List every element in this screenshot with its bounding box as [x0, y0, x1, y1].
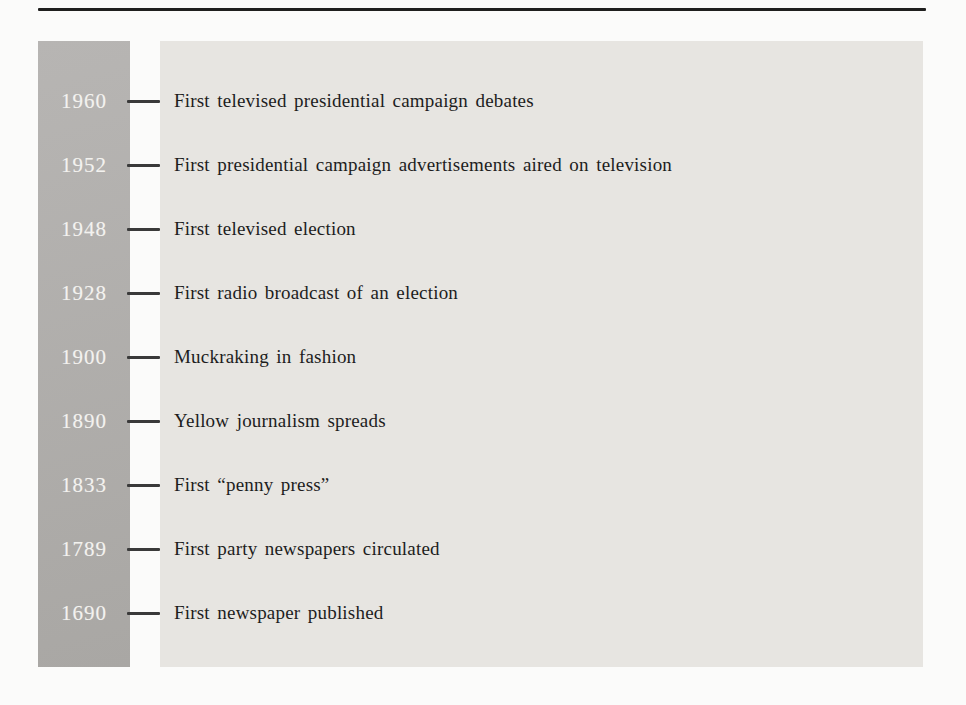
timeline-entry: 1833First “penny press” — [38, 453, 923, 517]
timeline-year: 1960 — [38, 89, 130, 114]
timeline-event-text: Muckraking in fashion — [174, 346, 356, 368]
timeline-entry: 1890Yellow journalism spreads — [38, 389, 923, 453]
timeline-year: 1952 — [38, 153, 130, 178]
timeline-year: 1900 — [38, 345, 130, 370]
tick-mark — [127, 484, 160, 487]
timeline-event-text: First televised presidential campaign de… — [174, 90, 534, 112]
timeline-entry: 1948First televised election — [38, 197, 923, 261]
media-timeline: 1960First televised presidential campaig… — [38, 41, 923, 667]
timeline-year: 1948 — [38, 217, 130, 242]
timeline-event-text: First “penny press” — [174, 474, 330, 496]
tick-mark — [127, 420, 160, 423]
timeline-entry: 1900Muckraking in fashion — [38, 325, 923, 389]
timeline-year: 1833 — [38, 473, 130, 498]
timeline-year: 1928 — [38, 281, 130, 306]
timeline-rows: 1960First televised presidential campaig… — [38, 41, 923, 667]
tick-mark — [127, 164, 160, 167]
timeline-year: 1690 — [38, 601, 130, 626]
timeline-year: 1890 — [38, 409, 130, 434]
timeline-entry: 1960First televised presidential campaig… — [38, 69, 923, 133]
timeline-event-text: First newspaper published — [174, 602, 383, 624]
tick-mark — [127, 292, 160, 295]
timeline-event-text: Yellow journalism spreads — [174, 410, 386, 432]
tick-mark — [127, 100, 160, 103]
top-rule — [38, 8, 926, 11]
timeline-event-text: First presidential campaign advertisemen… — [174, 154, 672, 176]
timeline-event-text: First party newspapers circulated — [174, 538, 440, 560]
timeline-entry: 1789First party newspapers circulated — [38, 517, 923, 581]
tick-mark — [127, 356, 160, 359]
timeline-entry: 1928First radio broadcast of an election — [38, 261, 923, 325]
timeline-entry: 1690First newspaper published — [38, 581, 923, 645]
timeline-event-text: First televised election — [174, 218, 356, 240]
page: 1960First televised presidential campaig… — [0, 0, 966, 705]
tick-mark — [127, 228, 160, 231]
tick-mark — [127, 612, 160, 615]
timeline-year: 1789 — [38, 537, 130, 562]
timeline-event-text: First radio broadcast of an election — [174, 282, 458, 304]
timeline-entry: 1952First presidential campaign advertis… — [38, 133, 923, 197]
tick-mark — [127, 548, 160, 551]
